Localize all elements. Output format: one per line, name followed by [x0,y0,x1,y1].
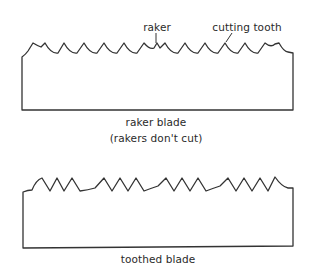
toothed-blade-caption: toothed blade [121,253,196,265]
raker-blade-subcaption: (rakers don't cut) [110,132,203,144]
raker-label: raker [143,21,171,33]
raker-blade-outline [22,43,293,110]
cutting-tooth-label: cutting tooth [212,21,281,33]
raker-blade-caption: raker blade [126,116,187,128]
toothed-blade-outline [23,177,293,248]
cutting-tooth-leader-line [226,33,232,42]
